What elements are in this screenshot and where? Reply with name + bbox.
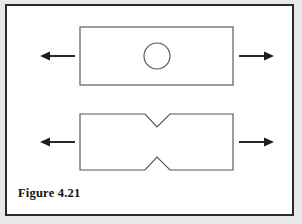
- figure-frame-border: Figure 4.21: [5, 4, 294, 216]
- right-tension-arrow: [239, 137, 274, 146]
- left-tension-arrow: [40, 137, 75, 146]
- figure-root: Figure 4.21: [0, 0, 302, 224]
- arrow-head-right-icon: [264, 137, 274, 146]
- diagram-canvas: [7, 6, 292, 214]
- left-tension-arrow: [40, 51, 75, 60]
- circular-hole-icon: [144, 43, 170, 69]
- arrow-head-right-icon: [264, 51, 274, 60]
- specimen-plate-with-circular-hole: [40, 27, 274, 85]
- arrow-head-left-icon: [40, 51, 50, 60]
- figure-caption: Figure 4.21: [18, 186, 80, 201]
- specimen-plate-with-v-notches: [40, 114, 274, 170]
- right-tension-arrow: [239, 51, 274, 60]
- notched-plate-outline: [80, 114, 233, 170]
- arrow-head-left-icon: [40, 137, 50, 146]
